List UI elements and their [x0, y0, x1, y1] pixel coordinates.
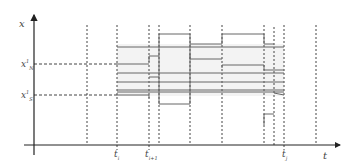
- t-tick-tj: tj: [282, 150, 287, 161]
- switching-time-diagram: x t x1N x1S ti ti+1 tj: [0, 0, 348, 167]
- y-tick-xS: x1S: [21, 90, 33, 102]
- diagram-graphic: [0, 0, 348, 167]
- y-axis-label: x: [19, 19, 25, 29]
- y-tick-xN: x1N: [21, 59, 34, 71]
- t-tick-ti: ti: [114, 150, 119, 161]
- t-tick-ti1: ti+1: [145, 150, 158, 161]
- shaded-region: [117, 44, 284, 96]
- x-axis-label: t: [323, 151, 327, 161]
- threshold-lines: [34, 64, 117, 95]
